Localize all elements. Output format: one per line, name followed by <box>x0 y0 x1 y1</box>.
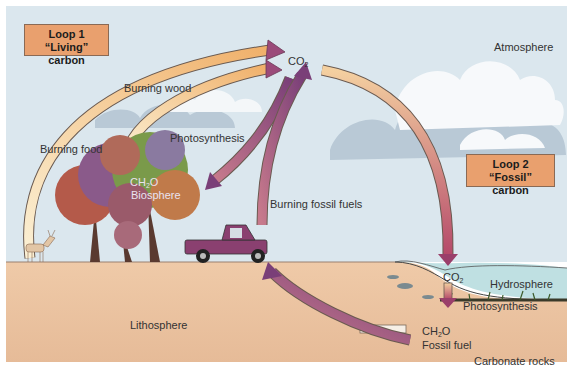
fossil-fuel-label: Fossil fuel <box>422 340 472 351</box>
co2-water-label: CO2 <box>443 272 463 284</box>
ch-fossil-text: CH <box>422 325 438 337</box>
lithosphere-label: Lithosphere <box>130 320 188 331</box>
co2-text: CO <box>288 55 305 67</box>
photosynthesis-water-label: Photosynthesis <box>463 301 538 312</box>
loop2-title: Loop 2 <box>471 158 550 171</box>
biosphere-formula-label: CH2O <box>130 177 158 189</box>
co2-water-text: CO <box>443 271 460 283</box>
co2-water-subscript: 2 <box>460 277 464 284</box>
atmosphere-label: Atmosphere <box>494 42 553 53</box>
o-fossil-text: O <box>442 325 451 337</box>
burning-fossil-fuels-label: Burning fossil fuels <box>270 199 362 210</box>
ch-text: CH <box>130 176 146 188</box>
co2-subscript: 2 <box>305 61 309 68</box>
fossil-formula-label: CH2O <box>422 326 450 338</box>
burning-food-label: Burning food <box>40 144 102 155</box>
loop2-label-box: Loop 2 “Fossil” carbon <box>466 154 555 187</box>
burning-wood-label: Burning wood <box>124 83 191 94</box>
loop1-label-box: Loop 1 “Living” carbon <box>24 24 109 56</box>
loop1-title: Loop 1 <box>29 28 104 41</box>
co2-atmosphere-label: CO2 <box>288 56 308 68</box>
biosphere-label: Biosphere <box>131 190 181 201</box>
arrow-photosynthesis-water <box>444 283 452 299</box>
photosynthesis-land-label: Photosynthesis <box>170 133 245 144</box>
carbonate-rocks-label: Carbonate rocks <box>474 356 555 367</box>
o-text: O <box>150 176 159 188</box>
hydrosphere-label: Hydrosphere <box>490 279 553 290</box>
carbon-cycle-diagram: Loop 1 “Living” carbon Loop 2 “Fossil” c… <box>0 0 573 381</box>
loop1-subtitle: “Living” carbon <box>29 41 104 67</box>
loop2-subtitle: “Fossil” carbon <box>471 171 550 197</box>
